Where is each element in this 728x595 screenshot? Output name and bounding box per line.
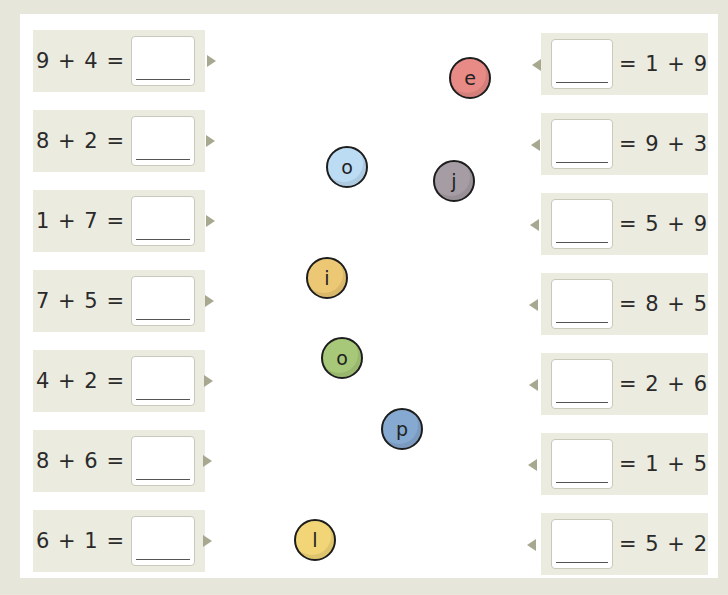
arrow-left-icon	[529, 299, 538, 311]
answer-box[interactable]	[551, 199, 613, 249]
answer-underline	[136, 399, 190, 401]
arrow-right-icon	[203, 535, 212, 547]
equation-expression: 8 + 6 =	[36, 449, 125, 473]
equation-expression: = 5 + 2	[619, 532, 708, 556]
arrow-left-icon	[530, 219, 539, 231]
letter-bead-o[interactable]: o	[326, 146, 368, 188]
equation-expression: 8 + 2 =	[36, 129, 125, 153]
equation-expression: = 2 + 6	[619, 372, 708, 396]
left-equation-row: 8 + 6 =	[33, 430, 205, 492]
letter-bead-e[interactable]: e	[449, 57, 491, 99]
right-equation-row: = 2 + 6	[541, 353, 708, 415]
arrow-left-icon	[528, 459, 537, 471]
arrow-right-icon	[206, 135, 215, 147]
answer-box[interactable]	[131, 36, 195, 86]
arrow-right-icon	[203, 455, 212, 467]
answer-underline	[556, 322, 608, 324]
left-equation-row: 6 + 1 =	[33, 510, 205, 572]
answer-box[interactable]	[131, 116, 195, 166]
letter-bead-l[interactable]: l	[294, 519, 336, 561]
left-equation-row: 4 + 2 =	[33, 350, 205, 412]
arrow-left-icon	[529, 379, 538, 391]
equation-expression: = 1 + 9	[619, 52, 708, 76]
answer-underline	[556, 402, 608, 404]
right-equation-row: = 8 + 5	[541, 273, 708, 335]
equation-expression: = 8 + 5	[619, 292, 708, 316]
left-equation-row: 1 + 7 =	[33, 190, 205, 252]
arrow-left-icon	[532, 59, 541, 71]
arrow-right-icon	[205, 295, 214, 307]
answer-box[interactable]	[551, 39, 613, 89]
left-equation-row: 7 + 5 =	[33, 270, 205, 332]
answer-box[interactable]	[131, 356, 195, 406]
equation-expression: = 1 + 5	[619, 452, 708, 476]
answer-box[interactable]	[551, 119, 613, 169]
answer-underline	[136, 319, 190, 321]
answer-box[interactable]	[551, 279, 613, 329]
arrow-left-icon	[531, 139, 540, 151]
answer-underline	[556, 562, 608, 564]
arrow-right-icon	[204, 375, 213, 387]
answer-underline	[136, 479, 190, 481]
answer-underline	[136, 159, 190, 161]
right-equation-row: = 9 + 3	[541, 113, 708, 175]
equation-expression: 9 + 4 =	[36, 49, 125, 73]
equation-expression: 6 + 1 =	[36, 529, 125, 553]
answer-box[interactable]	[131, 196, 195, 246]
answer-underline	[136, 239, 190, 241]
answer-underline	[556, 482, 608, 484]
right-equation-row: = 5 + 2	[541, 513, 708, 575]
equation-expression: 1 + 7 =	[36, 209, 125, 233]
equation-expression: = 5 + 9	[619, 212, 708, 236]
right-equation-row: = 1 + 9	[541, 33, 708, 95]
answer-underline	[556, 162, 608, 164]
answer-box[interactable]	[551, 439, 613, 489]
answer-box[interactable]	[131, 436, 195, 486]
left-equation-row: 9 + 4 =	[33, 30, 205, 92]
letter-bead-p[interactable]: p	[381, 408, 423, 450]
left-equation-row: 8 + 2 =	[33, 110, 205, 172]
arrow-right-icon	[206, 215, 215, 227]
right-equation-row: = 5 + 9	[541, 193, 708, 255]
answer-underline	[556, 82, 608, 84]
answer-box[interactable]	[551, 519, 613, 569]
equation-expression: 7 + 5 =	[36, 289, 125, 313]
answer-box[interactable]	[551, 359, 613, 409]
answer-underline	[136, 559, 190, 561]
answer-underline	[136, 79, 190, 81]
letter-bead-o[interactable]: o	[321, 337, 363, 379]
equation-expression: = 9 + 3	[619, 132, 708, 156]
arrow-right-icon	[207, 55, 216, 67]
right-equation-row: = 1 + 5	[541, 433, 708, 495]
letter-bead-i[interactable]: i	[306, 257, 348, 299]
answer-box[interactable]	[131, 276, 195, 326]
letter-bead-j[interactable]: j	[433, 160, 475, 202]
answer-underline	[556, 242, 608, 244]
answer-box[interactable]	[131, 516, 195, 566]
arrow-left-icon	[527, 539, 536, 551]
equation-expression: 4 + 2 =	[36, 369, 125, 393]
